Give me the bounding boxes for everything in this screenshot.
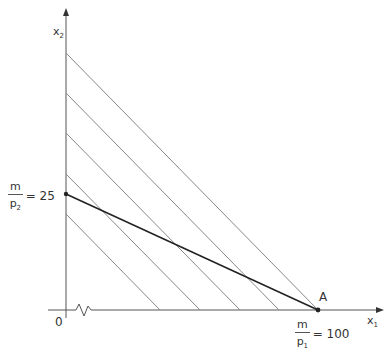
- indifference-line: [66, 133, 240, 310]
- x-intercept-label: m p1 = 100: [295, 318, 350, 350]
- indifference-line: [66, 53, 318, 310]
- indifference-lines: [66, 53, 318, 310]
- y-axis-arrow-icon: [63, 8, 69, 16]
- indifference-line: [66, 174, 200, 310]
- indifference-line: [66, 214, 160, 310]
- point-a-label: A: [319, 291, 327, 303]
- x-axis-label: x1: [367, 315, 378, 329]
- x-axis-arrow-icon: [376, 307, 384, 313]
- diagram-canvas: [0, 0, 392, 350]
- y-intercept-point: [64, 192, 68, 196]
- axis-break-icon: [76, 304, 91, 316]
- origin-label: 0: [55, 316, 63, 328]
- point-a: [316, 308, 321, 313]
- y-intercept-label: m p2 = 25: [8, 180, 55, 212]
- y-axis-label: x2: [53, 26, 64, 40]
